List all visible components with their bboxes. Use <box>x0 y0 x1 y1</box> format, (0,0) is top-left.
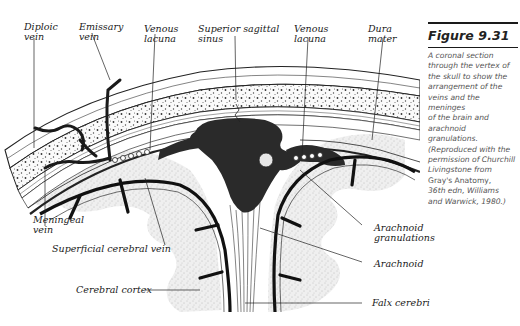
caption-line: and Warwick, 1980.) <box>428 197 518 207</box>
figure-caption: Figure 9.31 A coronal section through th… <box>428 22 518 207</box>
caption-text: A coronal section through the vertex of … <box>428 51 518 207</box>
label-dura-mater: Dura mater <box>368 24 397 44</box>
label-arachnoid: Arachnoid <box>374 259 423 269</box>
caption-line: Livingstone from <box>428 165 518 175</box>
label-superficial-cerebral-vein: Superficial cerebral vein <box>52 244 171 254</box>
caption-line: Gray's Anatomy, <box>428 176 518 186</box>
caption-line: arachnoid granulations. <box>428 124 518 145</box>
caption-line: the skull to show the <box>428 72 518 82</box>
label-diploic-vein: Diploic vein <box>24 22 58 42</box>
label-emissary-vein: Emissary vein <box>79 22 123 42</box>
caption-line: of the brain and <box>428 113 518 123</box>
figure-number: Figure 9.31 <box>428 28 518 43</box>
label-meningeal-vein: Meningeal vein <box>33 215 84 235</box>
label-superior-sagittal-sinus: Superior sagittal sinus <box>198 24 279 44</box>
label-venous-lacuna-left: Venous lacuna <box>144 24 178 44</box>
coronal-section-diagram: Diploic vein Emissary vein Venous lacuna… <box>0 0 420 326</box>
caption-line: 36th edn, Williams <box>428 186 518 196</box>
caption-line: (Reproduced with the <box>428 145 518 155</box>
label-falx-cerebri: Falx cerebri <box>372 298 430 308</box>
caption-line: arrangement of the <box>428 82 518 92</box>
caption-line: A coronal section <box>428 51 518 61</box>
label-arachnoid-granulations: Arachnoid granulations <box>374 223 435 243</box>
skull-meninges-illustration <box>0 0 420 326</box>
caption-top-rule <box>428 22 518 24</box>
caption-line: veins and the meninges <box>428 93 518 114</box>
caption-bottom-rule <box>428 47 518 49</box>
label-venous-lacuna-right: Venous lacuna <box>294 24 328 44</box>
caption-line: through the vertex of <box>428 61 518 71</box>
falx-cerebri <box>230 202 260 312</box>
label-cerebral-cortex: Cerebral cortex <box>76 285 152 295</box>
caption-line: permission of Churchill <box>428 155 518 165</box>
